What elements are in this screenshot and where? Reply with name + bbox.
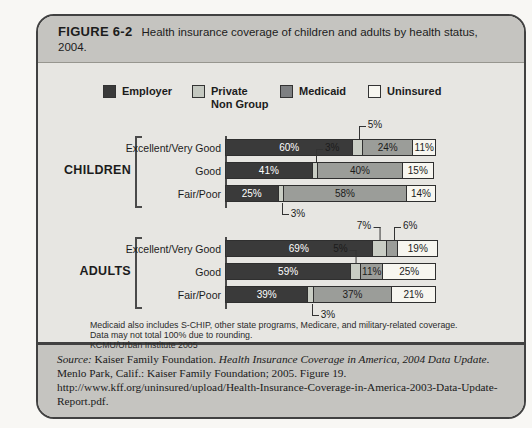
segment-value-label: 21% (403, 289, 423, 300)
segment-value-label: 39% (257, 289, 277, 300)
bar-segment-medicaid: 37% (313, 286, 392, 303)
callout-label: 7% (357, 227, 380, 240)
uninsured-swatch-icon (368, 85, 381, 98)
bar-row: Fair/Poor39%37%21%3% (38, 286, 524, 303)
segment-value-label: 14% (411, 188, 431, 199)
bar-segment-employer: 59% (225, 263, 351, 280)
stacked-bar: 41%40%15%3% (225, 162, 434, 179)
source-note: Source: Kaiser Family Foundation. Health… (38, 342, 524, 417)
figure-header: FIGURE 6-2Health insurance coverage of c… (38, 16, 524, 63)
callout-label: 6% (394, 227, 417, 240)
medicaid-swatch-icon (280, 85, 293, 98)
callout-value-label: 3% (291, 209, 305, 221)
source-publication-title: Health Insurance Coverage in America, 20… (219, 353, 487, 365)
legend-item-private_non_group: PrivateNon Group (192, 85, 268, 110)
callout-label: 5% (359, 126, 382, 139)
bar-row: Excellent/Very Good60%24%11%5% (38, 139, 524, 156)
footnote-line: Medicaid also includes S-CHIP, other sta… (90, 320, 458, 330)
category-label: Good (116, 165, 221, 177)
chart-area: Medicaid also includes S-CHIP, other sta… (38, 63, 524, 342)
callout-label: 3% (282, 203, 305, 215)
stacked-bar: 69%19%7%6% (225, 240, 438, 257)
source-label: Source: (57, 353, 92, 365)
callout-label: 3% (312, 304, 335, 316)
segment-value-label: 19% (408, 243, 428, 254)
segment-value-label: 24% (378, 142, 398, 153)
category-label: Excellent/Very Good (116, 142, 221, 154)
stacked-bar: 39%37%21%3% (225, 286, 436, 303)
segment-value-label: 59% (278, 266, 298, 277)
segment-value-label: 40% (350, 165, 370, 176)
bar-segment-uninsured: 19% (397, 240, 438, 257)
bar-segment-uninsured: 14% (406, 185, 436, 202)
callout-line (359, 126, 366, 139)
category-label: Fair/Poor (116, 289, 221, 301)
employer-swatch-icon (103, 85, 116, 98)
bar-row: Excellent/Very Good69%19%7%6% (38, 240, 524, 257)
legend-label: Medicaid (299, 85, 346, 98)
bar-segment-employer: 39% (225, 286, 308, 303)
legend-label: PrivateNon Group (211, 85, 268, 110)
segment-value-label: 25% (242, 188, 262, 199)
segment-value-label: 41% (259, 165, 279, 176)
callout-value-label: 5% (368, 120, 382, 133)
bar-segment-uninsured: 21% (391, 286, 436, 303)
callout-value-label: 3% (321, 310, 335, 322)
segment-value-label: 58% (335, 188, 355, 199)
segment-value-label: 11% (362, 266, 381, 277)
callout-line (312, 304, 319, 316)
stacked-bar: 25%58%14%3% (225, 185, 436, 202)
bar-row: Fair/Poor25%58%14%3% (38, 185, 524, 202)
callout-label: 5% (333, 250, 356, 263)
bar-segment-medicaid: 40% (317, 162, 403, 179)
group-children: CHILDRENExcellent/Very Good60%24%11%5%Go… (38, 139, 524, 202)
category-label: Fair/Poor (116, 188, 221, 200)
footnote-line: Data may not total 100% due to rounding. (90, 330, 458, 340)
segment-value-label: 37% (342, 289, 362, 300)
bar-segment-uninsured: 11% (412, 139, 436, 156)
figure-number: FIGURE 6-2 (58, 24, 133, 39)
callout-value-label: 6% (403, 221, 417, 234)
private_non_group-swatch-icon (192, 85, 205, 98)
category-label: Good (116, 266, 221, 278)
bar-segment-private_non_group (372, 240, 387, 257)
bar-segment-employer: 25% (225, 185, 279, 202)
group-adults: ADULTSExcellent/Very Good69%19%7%6%Good5… (38, 240, 524, 303)
bar-segment-uninsured: 15% (402, 162, 434, 179)
bar-row: Good41%40%15%3% (38, 162, 524, 179)
bar-segment-employer: 41% (225, 162, 313, 179)
footnote-line: KCMU/Urban Institute 2005 (90, 340, 458, 350)
legend-label: Uninsured (387, 85, 441, 98)
stacked-bar: 59%11%25%5% (225, 263, 436, 280)
callout-line (394, 227, 401, 240)
bar-segment-medicaid: 58% (283, 185, 407, 202)
callout-value-label: 7% (357, 221, 371, 234)
bar-segment-uninsured: 25% (382, 263, 436, 280)
footnotes: Medicaid also includes S-CHIP, other sta… (90, 320, 458, 350)
bar-row: Good59%11%25%5% (38, 263, 524, 280)
legend-label: Employer (122, 85, 172, 98)
bar-segment-medicaid: 24% (362, 139, 413, 156)
callout-value-label: 5% (333, 244, 347, 257)
category-label: Excellent/Very Good (116, 243, 221, 255)
segment-value-label: 11% (415, 142, 434, 153)
callout-line (350, 250, 357, 263)
segment-value-label: 25% (399, 266, 419, 277)
segment-value-label: 15% (408, 165, 428, 176)
callout-line (316, 149, 323, 162)
callout-line (373, 227, 380, 240)
legend-item-uninsured: Uninsured (368, 85, 441, 98)
callout-line (282, 203, 289, 215)
source-text: Kaiser Family Foundation. (92, 353, 219, 365)
figure-box: FIGURE 6-2Health insurance coverage of c… (36, 14, 526, 419)
segment-value-label: 60% (279, 142, 299, 153)
bar-segment-medicaid: 11% (360, 263, 384, 280)
callout-label: 3% (316, 149, 339, 162)
segment-value-label: 69% (289, 243, 309, 254)
callout-value-label: 3% (325, 143, 339, 156)
legend-item-medicaid: Medicaid (280, 85, 346, 98)
legend-item-employer: Employer (103, 85, 172, 98)
